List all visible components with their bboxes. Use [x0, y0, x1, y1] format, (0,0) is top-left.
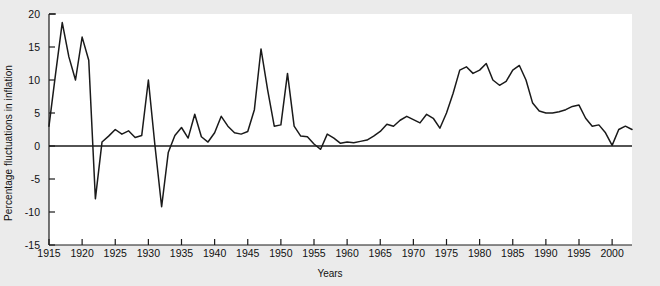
plot-canvas	[0, 0, 660, 286]
x-axis-tick-label: 1950	[269, 247, 292, 259]
x-axis-tick-label: 1990	[534, 247, 557, 259]
x-axis-tick-label: 1980	[468, 247, 491, 259]
x-axis-tick-label: 1940	[203, 247, 226, 259]
x-axis-tick-label: 1945	[236, 247, 259, 259]
x-axis-tick-label: 1915	[37, 247, 60, 259]
x-axis-tick-label: 1935	[170, 247, 193, 259]
x-axis-tick-label: 1995	[567, 247, 590, 259]
x-axis-tick-label: 1930	[137, 247, 160, 259]
x-axis-label: Years	[0, 268, 660, 279]
x-axis-tick-label: 1925	[104, 247, 127, 259]
x-axis-tick-label: 1965	[369, 247, 392, 259]
x-axis-tick-label: 1970	[402, 247, 425, 259]
x-axis-tick-label: 1920	[70, 247, 93, 259]
plot-background	[49, 14, 632, 245]
x-axis-tick-label: 1960	[335, 247, 358, 259]
x-axis-tick-label: 2000	[600, 247, 623, 259]
x-axis-tick-label: 1985	[501, 247, 524, 259]
plot-frame	[49, 14, 632, 245]
x-axis-tick-label: 1975	[435, 247, 458, 259]
inflation-fluctuations-chart: Percentage fluctuations in inflation 201…	[0, 0, 660, 286]
x-axis-tick-label: 1955	[302, 247, 325, 259]
